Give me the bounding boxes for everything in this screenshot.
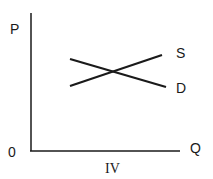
supply-label: S — [176, 45, 185, 61]
demand-curve — [70, 59, 166, 87]
supply-demand-diagram: P Q 0 S D IV — [0, 0, 213, 179]
x-axis-label: Q — [190, 140, 201, 156]
origin-label: 0 — [8, 144, 16, 160]
y-axis-label: P — [10, 21, 19, 37]
demand-label: D — [176, 80, 186, 96]
figure-caption: IV — [105, 161, 120, 176]
